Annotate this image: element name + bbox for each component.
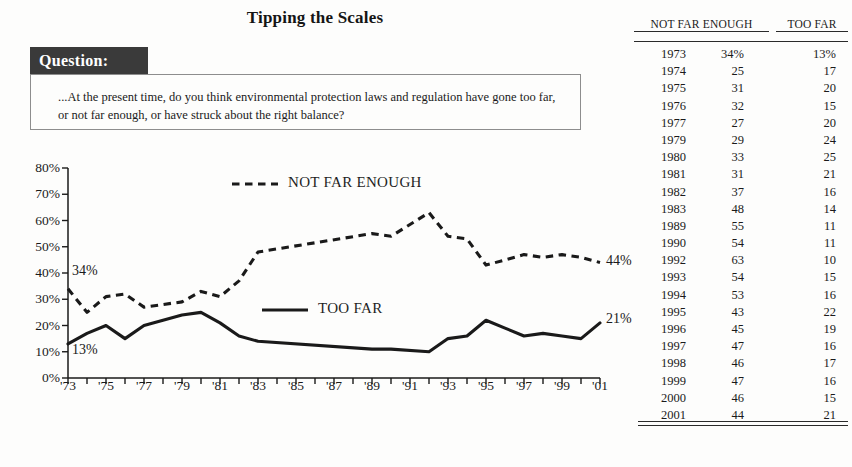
cell-too-far: 20	[796, 116, 836, 131]
table-row: 19984617	[600, 356, 852, 373]
cell-not-far-enough: 54	[704, 236, 744, 251]
table-row: 19964519	[600, 322, 852, 339]
table-body: 197334%13%197425171975312019763215197727…	[600, 47, 852, 425]
question-tab-label: Question:	[39, 52, 108, 70]
cell-too-far: 15	[796, 391, 836, 406]
annotation-nfe-start: 34%	[72, 263, 98, 279]
table-header-rule	[634, 41, 848, 42]
table-row: 19772720	[600, 116, 852, 133]
table-row: 19895511	[600, 219, 852, 236]
table-header-row: NOT FAR ENOUGH TOO FAR	[600, 18, 852, 38]
cell-year: 1973	[638, 47, 686, 62]
cell-too-far: 20	[796, 81, 836, 96]
cell-year: 1995	[638, 305, 686, 320]
cell-too-far: 15	[796, 270, 836, 285]
x-tick-label: '85	[279, 378, 313, 394]
x-tick-label: '81	[203, 378, 237, 394]
cell-too-far: 17	[796, 64, 836, 79]
chart-axes	[62, 168, 600, 384]
cell-not-far-enough: 29	[704, 133, 744, 148]
cell-not-far-enough: 47	[704, 374, 744, 389]
cell-too-far: 11	[796, 219, 836, 234]
x-tick-label: '95	[469, 378, 503, 394]
table-row: 19935415	[600, 270, 852, 287]
cell-not-far-enough: 63	[704, 253, 744, 268]
x-tick-label: '97	[507, 378, 541, 394]
cell-too-far: 25	[796, 150, 836, 165]
cell-not-far-enough: 53	[704, 288, 744, 303]
cell-too-far: 24	[796, 133, 836, 148]
x-tick-label: '83	[241, 378, 275, 394]
x-tick-label: '89	[355, 378, 389, 394]
x-tick-label: '79	[165, 378, 199, 394]
table-row: 19905411	[600, 236, 852, 253]
cell-not-far-enough: 46	[704, 391, 744, 406]
cell-too-far: 22	[796, 305, 836, 320]
data-table: NOT FAR ENOUGH TOO FAR 197334%13%1974251…	[600, 18, 852, 38]
cell-year: 2000	[638, 391, 686, 406]
cell-too-far: 11	[796, 236, 836, 251]
x-tick-label: '73	[51, 378, 85, 394]
cell-too-far: 14	[796, 202, 836, 217]
table-row: 19742517	[600, 64, 852, 81]
cell-not-far-enough: 43	[704, 305, 744, 320]
question-text: ...At the present time, do you think env…	[58, 88, 558, 124]
cell-too-far: 13%	[796, 47, 836, 62]
cell-not-far-enough: 31	[704, 81, 744, 96]
table-row: 19994716	[600, 374, 852, 391]
cell-not-far-enough: 54	[704, 270, 744, 285]
x-tick-label: '87	[317, 378, 351, 394]
cell-not-far-enough: 37	[704, 185, 744, 200]
series-line-not-far-enough	[68, 213, 600, 313]
cell-not-far-enough: 45	[704, 322, 744, 337]
cell-year: 1989	[638, 219, 686, 234]
cell-not-far-enough: 48	[704, 202, 744, 217]
table-row: 19792924	[600, 133, 852, 150]
cell-not-far-enough: 33	[704, 150, 744, 165]
table-header-not-far-enough: NOT FAR ENOUGH	[634, 18, 769, 32]
cell-year: 1981	[638, 167, 686, 182]
cell-year: 1999	[638, 374, 686, 389]
cell-year: 1983	[638, 202, 686, 217]
cell-not-far-enough: 34%	[704, 47, 744, 62]
cell-year: 1974	[638, 64, 686, 79]
table-row: 19954322	[600, 305, 852, 322]
cell-year: 1996	[638, 322, 686, 337]
cell-year: 1982	[638, 185, 686, 200]
question-tab: Question:	[30, 47, 148, 74]
cell-year: 1977	[638, 116, 686, 131]
table-row: 19823716	[600, 185, 852, 202]
cell-not-far-enough: 31	[704, 167, 744, 182]
cell-year: 1994	[638, 288, 686, 303]
cell-year: 1979	[638, 133, 686, 148]
table-row: 20004615	[600, 391, 852, 408]
cell-not-far-enough: 25	[704, 64, 744, 79]
table-row: 19834814	[600, 202, 852, 219]
series-label-too-far: TOO FAR	[318, 300, 382, 317]
cell-year: 1975	[638, 81, 686, 96]
table-row: 19753120	[600, 81, 852, 98]
x-tick-label: '77	[127, 378, 161, 394]
cell-too-far: 21	[796, 167, 836, 182]
cell-year: 1998	[638, 356, 686, 371]
series-label-not-far-enough: NOT FAR ENOUGH	[288, 174, 422, 191]
table-row: 197334%13%	[600, 47, 852, 64]
x-tick-label: '91	[393, 378, 427, 394]
cell-too-far: 16	[796, 288, 836, 303]
x-tick-label: '99	[545, 378, 579, 394]
cell-too-far: 15	[796, 99, 836, 114]
cell-year: 1976	[638, 99, 686, 114]
cell-too-far: 10	[796, 253, 836, 268]
cell-not-far-enough: 32	[704, 99, 744, 114]
cell-year: 1997	[638, 339, 686, 354]
table-footer-rule	[638, 421, 848, 426]
table-row: 19926310	[600, 253, 852, 270]
annotation-tf-start: 13%	[72, 342, 98, 358]
table-header-too-far: TOO FAR	[776, 18, 848, 32]
cell-too-far: 16	[796, 374, 836, 389]
cell-year: 1992	[638, 253, 686, 268]
x-tick-label: '75	[89, 378, 123, 394]
cell-not-far-enough: 55	[704, 219, 744, 234]
line-chart: 0%10%20%30%40%50%60%70%80% '73'75'77'79'…	[0, 150, 660, 400]
page-title: Tipping the Scales	[150, 8, 480, 28]
